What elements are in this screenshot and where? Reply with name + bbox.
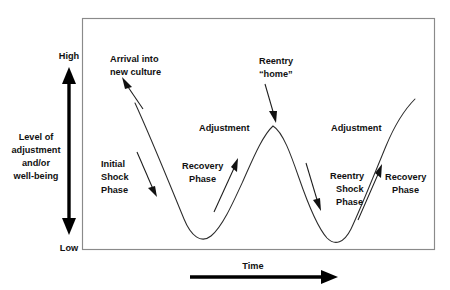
y-axis-title-line1: Level of <box>19 132 55 142</box>
reentry-shock-label-line3: Phase <box>336 197 363 207</box>
x-axis-arrow <box>190 270 338 284</box>
initial-shock-label-line3: Phase <box>101 185 128 195</box>
recovery2-label-line2: Phase <box>392 185 419 195</box>
annotation-recovery-phase-2: Recovery Phase <box>358 164 427 220</box>
annotation-initial-shock: Initial Shock Phase <box>101 152 157 197</box>
y-axis-title: Level of adjustment and/or well-being <box>11 132 60 181</box>
y-axis-low-label: Low <box>60 243 79 253</box>
x-axis-arrowhead-right <box>321 270 338 284</box>
arrival-pointer-arrowhead <box>122 77 132 89</box>
recovery1-pointer-arrowhead <box>231 158 238 172</box>
annotation-recovery-phase-1: Recovery Phase <box>182 158 238 212</box>
reentry-home-label-line2: “home” <box>259 69 293 79</box>
y-axis-title-line4: well-being <box>13 171 59 181</box>
annotation-arrival: Arrival into new culture <box>110 54 161 109</box>
initial-shock-pointer-arrowhead <box>148 186 157 197</box>
reentry-shock-label-line1: Reentry <box>330 171 365 181</box>
annotation-adjustment-2: Adjustment <box>331 123 382 133</box>
y-axis-title-line2: adjustment <box>11 145 60 155</box>
y-axis-high-label: High <box>59 51 80 61</box>
adjustment1-label: Adjustment <box>199 123 250 133</box>
arrival-label-line2: new culture <box>110 67 161 77</box>
reentry-shock-label-line2: Shock <box>336 184 364 194</box>
recovery1-label-line2: Phase <box>189 174 216 184</box>
culture-shock-diagram: Arrival into new culture Initial Shock P… <box>0 0 450 290</box>
reentry-home-label-line1: Reentry <box>259 56 294 66</box>
recovery1-label-line1: Recovery <box>182 161 224 171</box>
initial-shock-pointer-line <box>137 152 153 189</box>
x-axis-title: Time <box>242 261 263 271</box>
y-axis-arrowhead-down <box>62 218 76 235</box>
initial-shock-label-line2: Shock <box>101 172 129 182</box>
reentry-shock-pointer-line <box>306 163 318 203</box>
recovery2-label-line1: Recovery <box>385 172 427 182</box>
y-axis-arrow <box>62 67 76 235</box>
reentry-home-pointer-arrowhead <box>269 111 277 123</box>
annotation-reentry-home: Reentry “home” <box>259 56 294 123</box>
diagram-canvas: Arrival into new culture Initial Shock P… <box>0 0 450 290</box>
y-axis-arrowhead-up <box>62 67 76 84</box>
annotation-adjustment-1: Adjustment <box>199 123 250 133</box>
reentry-shock-pointer-arrowhead <box>313 198 321 211</box>
arrival-label-line1: Arrival into <box>110 54 159 64</box>
initial-shock-label-line1: Initial <box>101 159 125 169</box>
annotation-reentry-shock: Reentry Shock Phase <box>306 163 365 211</box>
reentry-home-pointer-line <box>265 84 274 115</box>
y-axis-title-line3: and/or <box>22 158 50 168</box>
adjustment2-label: Adjustment <box>331 123 382 133</box>
